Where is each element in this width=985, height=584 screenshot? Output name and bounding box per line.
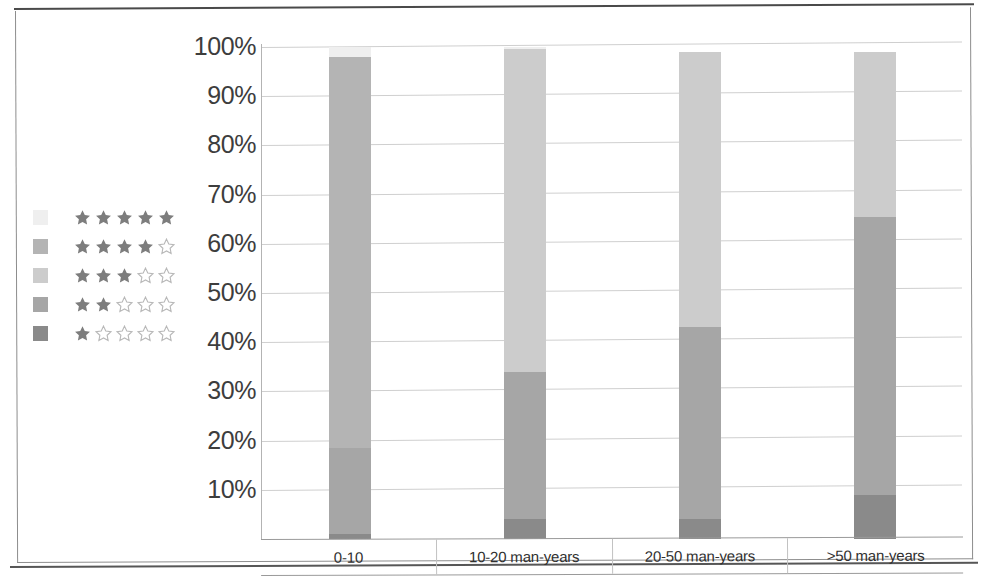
- star-filled-icon: [95, 267, 112, 284]
- x-axis-category-label: >50 man-years: [788, 538, 963, 574]
- star-empty-icon: [95, 325, 112, 342]
- bar-segment: [679, 519, 721, 539]
- bar-segment: [679, 52, 721, 328]
- bar-segment: [504, 519, 546, 539]
- star-empty-icon: [116, 325, 133, 342]
- star-filled-icon: [74, 325, 91, 342]
- star-filled-icon: [95, 238, 112, 255]
- star-empty-icon: [158, 238, 175, 255]
- star-filled-icon: [116, 238, 133, 255]
- star-filled-icon: [74, 209, 91, 226]
- bar-segment: [329, 47, 371, 57]
- star-empty-icon: [158, 267, 175, 284]
- star-empty-icon: [116, 296, 133, 313]
- legend-item[interactable]: [33, 290, 233, 319]
- legend-item[interactable]: [33, 232, 233, 261]
- legend-color-swatch: [33, 297, 48, 312]
- chart-page: 100%90%80%70%60%50%40%30%20%10% 0-1010-2…: [0, 0, 985, 584]
- star-rating-icon-group: [74, 209, 175, 226]
- plot-area: [262, 47, 962, 539]
- bar-column: [854, 52, 896, 539]
- bar-segment: [504, 49, 546, 371]
- star-filled-icon: [158, 209, 175, 226]
- star-filled-icon: [74, 296, 91, 313]
- star-rating-icon-group: [74, 325, 175, 342]
- legend-color-swatch: [33, 239, 48, 254]
- x-axis-category-strip: 0-1010-20 man-years20-50 man-years>50 ma…: [261, 537, 963, 576]
- bar-segment: [329, 57, 371, 448]
- y-axis-tick-label: 80%: [6, 132, 256, 157]
- bar-segment: [329, 448, 371, 534]
- star-rating-icon-group: [74, 238, 175, 255]
- bar-segment: [679, 327, 721, 519]
- legend-color-swatch: [33, 268, 48, 283]
- y-axis-tick-label: 90%: [6, 83, 256, 108]
- star-empty-icon: [137, 267, 154, 284]
- legend-item[interactable]: [33, 203, 233, 232]
- legend-item[interactable]: [33, 261, 233, 290]
- star-filled-icon: [95, 209, 112, 226]
- bar-segment: [854, 495, 896, 539]
- bar-column: [679, 52, 721, 539]
- legend-color-swatch: [33, 210, 48, 225]
- y-axis-tick-label: 10%: [6, 477, 256, 502]
- star-empty-icon: [158, 325, 175, 342]
- x-axis-category-label: 10-20 man-years: [437, 539, 613, 575]
- star-rating-icon-group: [74, 296, 175, 313]
- star-rating-icon-group: [74, 267, 175, 284]
- star-filled-icon: [116, 209, 133, 226]
- star-filled-icon: [95, 296, 112, 313]
- legend-color-swatch: [33, 326, 48, 341]
- legend-item[interactable]: [33, 319, 233, 348]
- star-empty-icon: [158, 296, 175, 313]
- star-empty-icon: [137, 325, 154, 342]
- bar-segment: [854, 52, 896, 217]
- star-empty-icon: [137, 296, 154, 313]
- y-axis-tick-label: 20%: [6, 428, 256, 453]
- star-filled-icon: [116, 267, 133, 284]
- star-filled-icon: [137, 238, 154, 255]
- bar-column: [329, 47, 371, 539]
- x-axis-category-label: 20-50 man-years: [613, 538, 789, 574]
- x-axis-category-label: 0-10: [261, 539, 437, 575]
- bar-column: [504, 47, 546, 539]
- y-axis-tick-label: 100%: [6, 34, 256, 59]
- bar-segment: [854, 217, 896, 495]
- bar-segment: [504, 372, 546, 520]
- chart-legend: [33, 203, 233, 348]
- y-axis-tick-label: 30%: [6, 378, 256, 403]
- star-filled-icon: [74, 267, 91, 284]
- star-filled-icon: [137, 209, 154, 226]
- star-filled-icon: [74, 238, 91, 255]
